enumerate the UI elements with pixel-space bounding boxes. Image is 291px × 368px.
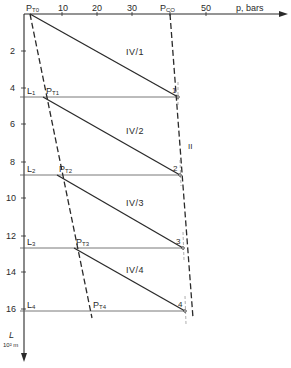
- pt1-label: PT1: [46, 86, 60, 96]
- level-label-2: L2: [27, 164, 36, 174]
- y-tick-label: 6: [10, 119, 15, 129]
- origin-label: PT0: [26, 3, 40, 13]
- level-lines: [20, 97, 185, 311]
- pressure-gradient-lines: [30, 14, 185, 311]
- y-tick-label: 10: [6, 193, 16, 203]
- y-axis-title: L: [9, 330, 14, 340]
- level-label-4: L4: [27, 300, 36, 310]
- pressure-depth-diagram: 10 20 30 50 p, bars PT0 PCO 2 4 6 8 10 1…: [0, 0, 291, 368]
- x-tick-label: 10: [58, 3, 68, 13]
- curve-ii-label: II: [188, 142, 192, 151]
- y-tick-label: 12: [6, 231, 16, 241]
- y-tick-label: 2: [10, 46, 15, 56]
- x-tick-label: 20: [92, 3, 102, 13]
- region-label-iv3: IV/3: [126, 198, 144, 208]
- y-tick-label: 8: [10, 157, 15, 167]
- point-number-2: 2: [173, 164, 178, 173]
- pco-label: PCO: [160, 3, 175, 13]
- point-number-4: 4: [178, 300, 183, 309]
- region-label-iv2: IV/2: [126, 126, 144, 136]
- pt4-label: PT4: [93, 300, 107, 310]
- x-tick-label: 50: [201, 3, 211, 13]
- y-tick-label: 14: [6, 267, 16, 277]
- y-axis-arrow-icon: [21, 353, 27, 362]
- y-tick-label: 16: [6, 304, 16, 314]
- y-tick-label: 4: [10, 83, 15, 93]
- axes: [21, 11, 288, 362]
- point-number-3: 3: [176, 237, 181, 246]
- y-axis-unit: 10² m: [3, 342, 18, 348]
- region-label-iv1: IV/1: [126, 47, 144, 57]
- level-label-3: L3: [27, 237, 36, 247]
- level-label-1: L1: [27, 86, 36, 96]
- point-number-1: 1: [172, 86, 177, 95]
- x-axis-arrow-icon: [279, 11, 288, 17]
- pt2-label: PT2: [59, 164, 73, 174]
- region-label-iv4: IV/4: [126, 265, 144, 275]
- x-axis-title: p, bars: [236, 3, 264, 13]
- x-tick-label: 30: [127, 3, 137, 13]
- pt3-label: PT3: [76, 237, 90, 247]
